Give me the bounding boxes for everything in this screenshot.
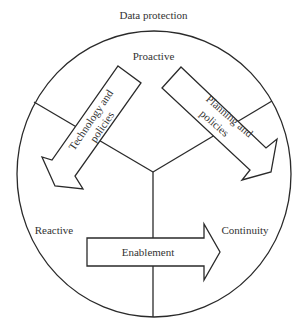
data-protection-diagram: Data protection Technology and policies …	[0, 0, 304, 336]
label-continuity: Continuity	[221, 224, 269, 236]
label-proactive: Proactive	[133, 50, 175, 62]
label-reactive: Reactive	[35, 224, 74, 236]
diagram-title: Data protection	[119, 9, 188, 21]
arrow-bottom-label: Enablement	[122, 246, 175, 258]
arrow-technology-and-policies: Technology and policies	[42, 66, 141, 189]
